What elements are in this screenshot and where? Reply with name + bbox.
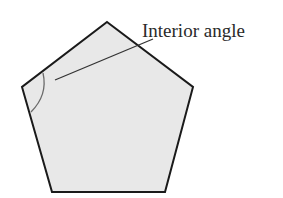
pentagon-shape [22, 22, 193, 192]
pentagon-diagram: Interior angle [0, 0, 283, 198]
interior-angle-label: Interior angle [142, 20, 245, 41]
